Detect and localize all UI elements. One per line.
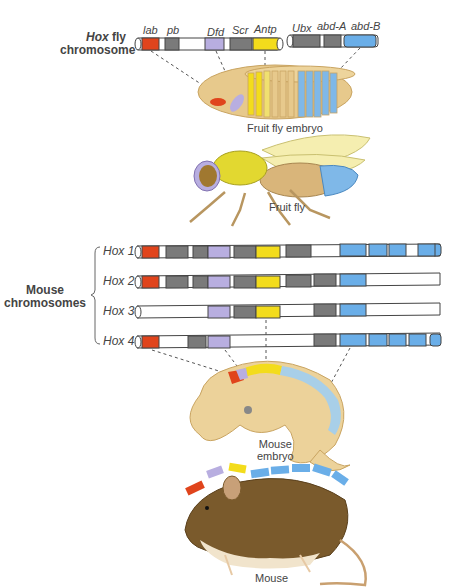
- mouse-illustration: [185, 476, 366, 585]
- hox3-chromosome: [135, 303, 440, 318]
- hox3-label: Hox 3: [103, 304, 134, 318]
- hox1-label: Hox 1: [103, 244, 134, 258]
- mouse-caption: Mouse: [255, 572, 288, 584]
- mouse-brace: [91, 247, 100, 344]
- hox1-chromosome: [135, 244, 441, 258]
- fruit-fly-embryo-caption: Fruit fly embryo: [247, 122, 323, 134]
- fruit-fly-caption: Fruit fly: [269, 201, 305, 213]
- mouse-embryo-caption: Mouse embryo: [257, 438, 294, 462]
- fly-chromosome-right: [287, 35, 378, 47]
- chromosomes-word: chromosomes: [4, 296, 86, 310]
- mouse-chromosomes-title: Mouse chromosomes: [2, 284, 88, 310]
- hox4-label: Hox 4: [103, 334, 134, 348]
- hox2-chromosome: [135, 273, 440, 288]
- fly-chromosome-left: [135, 38, 283, 50]
- fruit-fly-embryo-illustration: [198, 65, 355, 119]
- hox2-label: Hox 2: [103, 274, 134, 288]
- mouse-word: Mouse: [26, 283, 64, 297]
- mouse-embryo-line2: embryo: [257, 450, 294, 462]
- hox4-chromosome: [135, 333, 441, 348]
- mouse-embryo-line1: Mouse: [259, 438, 292, 450]
